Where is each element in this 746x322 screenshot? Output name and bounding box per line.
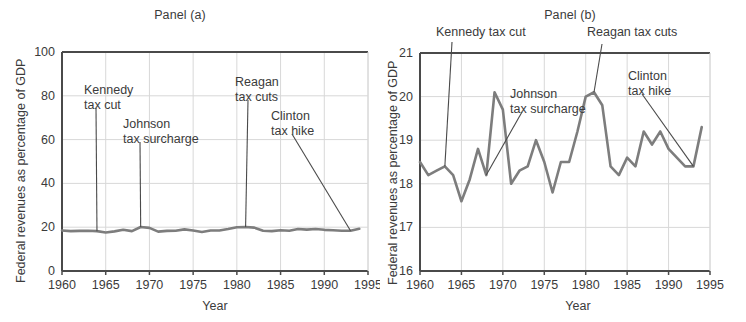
- annotation-label: tax hike: [628, 84, 671, 98]
- y-tick-label: 16: [399, 264, 413, 278]
- x-tick-label: 1995: [354, 278, 380, 292]
- y-tick-label: 17: [399, 220, 413, 234]
- x-tick-label: 1965: [92, 278, 120, 292]
- x-tick-label: 1980: [572, 278, 600, 292]
- x-tick-label: 1990: [655, 278, 683, 292]
- annotation-leader-line: [642, 94, 693, 166]
- x-tick-label: 1970: [489, 278, 517, 292]
- x-tick-label: 1985: [613, 278, 641, 292]
- panel-a: Panel (a) Federal revenues as percentage…: [0, 0, 380, 322]
- annotation-label: Reagan tax cuts: [587, 25, 677, 39]
- y-tick-label: 80: [41, 89, 55, 103]
- annotation-label: Johnson: [123, 117, 170, 131]
- x-tick-label: 1975: [530, 278, 558, 292]
- annotation-label: tax surcharge: [123, 132, 199, 146]
- y-tick-label: 21: [399, 46, 413, 60]
- annotation-leader-line: [445, 42, 452, 166]
- x-tick-label: 1990: [310, 278, 338, 292]
- annotation-leader-line: [594, 44, 602, 92]
- x-tick-label: 1995: [696, 278, 724, 292]
- y-tick-label: 100: [34, 45, 55, 59]
- x-tick-label: 1960: [406, 278, 434, 292]
- y-tick-label: 20: [41, 220, 55, 234]
- annotation-leader-line: [292, 134, 351, 231]
- y-tick-label: 0: [48, 264, 55, 278]
- annotation-label: Reagan: [235, 75, 279, 89]
- annotation-label: Johnson: [510, 87, 557, 101]
- x-tick-label: 1960: [48, 278, 76, 292]
- figure-two-panel-chart: Panel (a) Federal revenues as percentage…: [0, 0, 746, 322]
- x-tick-label: 1985: [267, 278, 295, 292]
- y-tick-label: 20: [399, 90, 413, 104]
- x-tick-label: 1965: [448, 278, 476, 292]
- x-tick-label: 1975: [179, 278, 207, 292]
- annotation-label: Clinton: [628, 69, 667, 83]
- annotation-label: tax cuts: [235, 90, 278, 104]
- annotation-leader-line: [246, 100, 248, 227]
- annotation-leader-line: [96, 108, 97, 231]
- annotation-label: Clinton: [271, 109, 310, 123]
- x-tick-label: 1970: [136, 278, 164, 292]
- annotation-leader-line: [140, 142, 141, 227]
- y-tick-label: 40: [41, 176, 55, 190]
- y-tick-label: 19: [399, 133, 413, 147]
- panel-b-plot: 1617181920211960196519701975198019851990…: [380, 0, 746, 322]
- y-tick-label: 18: [399, 177, 413, 191]
- y-tick-label: 60: [41, 133, 55, 147]
- panel-a-plot: 0204060801001960196519701975198019851990…: [0, 0, 380, 322]
- data-series-line: [62, 227, 359, 232]
- x-tick-label: 1980: [223, 278, 251, 292]
- annotation-label: Kennedy tax cut: [436, 25, 526, 39]
- annotation-label: tax cut: [84, 98, 121, 112]
- annotation-label: Kennedy: [84, 83, 134, 97]
- panel-b: Panel (b) Federal revenues as percentage…: [380, 0, 746, 322]
